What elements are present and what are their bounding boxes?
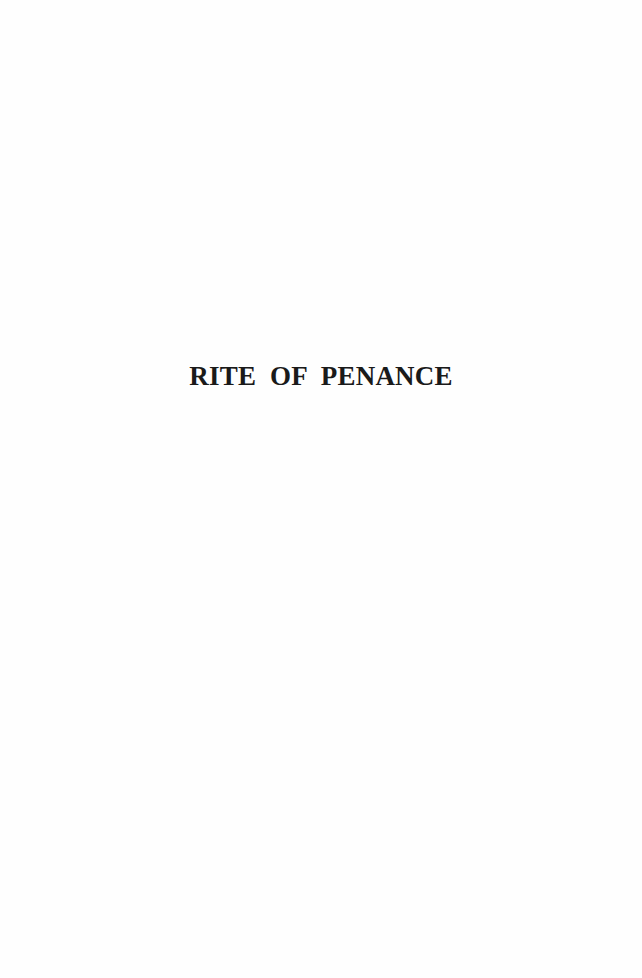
document-page: RITE OF PENANCE xyxy=(0,0,642,978)
page-title: RITE OF PENANCE xyxy=(0,359,642,393)
